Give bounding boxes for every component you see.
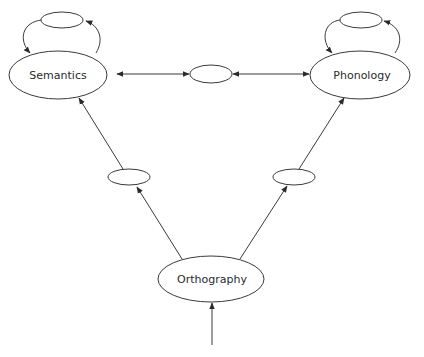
phonology-loop-left-arc2 (325, 20, 340, 53)
edge-hidden-right-phonology (299, 98, 344, 169)
edge-hidden-left-semantics (79, 98, 123, 169)
node-semantics-phonology-hidden (190, 65, 232, 83)
node-orthography-phonology-hidden (273, 169, 315, 185)
semantics-loop-left-arc (23, 20, 42, 53)
orthography-label: Orthography (177, 273, 247, 286)
node-phonology-loop-hidden (340, 12, 382, 28)
node-orthography-semantics-hidden (108, 169, 150, 185)
edge-orth-hidden-left (137, 187, 182, 259)
phonology-loop-right-arc (384, 21, 400, 53)
semantics-label: Semantics (29, 69, 87, 82)
triangle-model-diagram: Semantics Phonology Orthography (0, 0, 424, 357)
semantics-loop-right-arc (86, 21, 100, 53)
phonology-label: Phonology (333, 69, 391, 82)
node-semantics-loop-hidden (41, 12, 83, 28)
edge-orth-hidden-right (240, 186, 287, 259)
